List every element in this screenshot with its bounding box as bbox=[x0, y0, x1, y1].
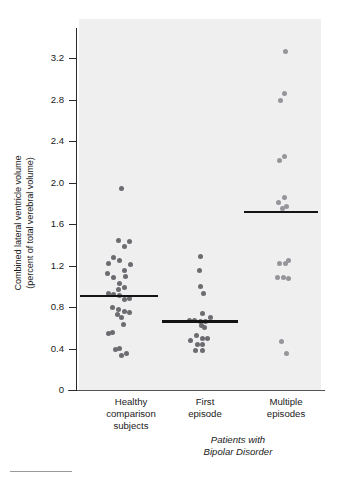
y-tick-1.2 bbox=[69, 266, 77, 267]
data-point bbox=[279, 339, 284, 344]
data-point bbox=[110, 305, 115, 310]
data-point bbox=[111, 255, 116, 260]
mean-line bbox=[244, 211, 318, 213]
data-point bbox=[117, 281, 122, 286]
y-tick-1.6 bbox=[69, 224, 77, 225]
mean-line bbox=[80, 295, 158, 297]
note-line-2: Bipolar Disorder bbox=[168, 446, 308, 458]
data-point bbox=[119, 315, 124, 320]
y-tick-label-3.2: 3.2 bbox=[24, 53, 64, 63]
y-tick-label-0.4: 0.4 bbox=[24, 344, 64, 354]
data-point bbox=[200, 348, 205, 353]
y-tick-0.8 bbox=[69, 307, 77, 308]
data-point bbox=[119, 353, 124, 358]
data-point bbox=[284, 351, 289, 356]
scatter-plot-figure: Combined lateral ventricle volume (perce… bbox=[0, 0, 342, 479]
data-point bbox=[116, 307, 121, 312]
y-tick-2.4 bbox=[69, 141, 77, 142]
data-point bbox=[188, 338, 193, 343]
data-point bbox=[205, 336, 210, 341]
y-tick-0.4 bbox=[69, 349, 77, 350]
patient-group-note: Patients with Bipolar Disorder bbox=[168, 434, 308, 458]
y-tick-label-1.6: 1.6 bbox=[24, 219, 64, 229]
data-point bbox=[121, 322, 126, 327]
data-point bbox=[116, 287, 121, 292]
data-point bbox=[116, 238, 121, 243]
data-point bbox=[277, 261, 282, 266]
x-axis-label-multiple-episodes: Multiple episodes bbox=[238, 396, 334, 420]
note-line-1: Patients with bbox=[168, 434, 308, 446]
data-point bbox=[195, 342, 200, 347]
y-tick-label-0: 0 bbox=[24, 385, 64, 395]
data-point bbox=[283, 261, 288, 266]
y-tick-label-2.4: 2.4 bbox=[24, 136, 64, 146]
y-tick-2.0 bbox=[69, 183, 77, 184]
y-tick-label-2.8: 2.8 bbox=[24, 95, 64, 105]
x-label-line-1: Multiple bbox=[238, 396, 334, 408]
data-point bbox=[122, 309, 127, 314]
y-tick-label-1.2: 1.2 bbox=[24, 261, 64, 271]
data-point bbox=[198, 284, 203, 289]
y-tick-label-2.0: 2.0 bbox=[24, 178, 64, 188]
y-tick-0 bbox=[69, 390, 77, 391]
data-point bbox=[200, 336, 205, 341]
x-label-line-3: subjects bbox=[83, 420, 179, 432]
data-point bbox=[282, 91, 287, 96]
data-point bbox=[282, 195, 287, 200]
data-point bbox=[278, 98, 283, 103]
data-point bbox=[117, 346, 122, 351]
mean-line bbox=[162, 320, 238, 322]
data-point bbox=[197, 268, 202, 273]
x-axis-line bbox=[68, 390, 325, 391]
data-point bbox=[194, 333, 199, 338]
data-point bbox=[198, 254, 203, 259]
y-tick-label-0.8: 0.8 bbox=[24, 302, 64, 312]
y-tick-3.2 bbox=[69, 58, 77, 59]
y-tick-2.8 bbox=[69, 100, 77, 101]
x-label-line-2: episodes bbox=[238, 408, 334, 420]
footer-rule bbox=[10, 471, 72, 472]
y-axis-line bbox=[76, 28, 77, 390]
data-point bbox=[106, 261, 111, 266]
